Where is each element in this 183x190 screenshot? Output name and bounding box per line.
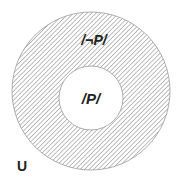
not-p-label: /¬P/ <box>80 32 108 48</box>
venn-diagram: /¬P/ /P/ U <box>0 0 183 190</box>
universe-label: U <box>17 158 27 174</box>
p-label: /P/ <box>81 90 102 107</box>
